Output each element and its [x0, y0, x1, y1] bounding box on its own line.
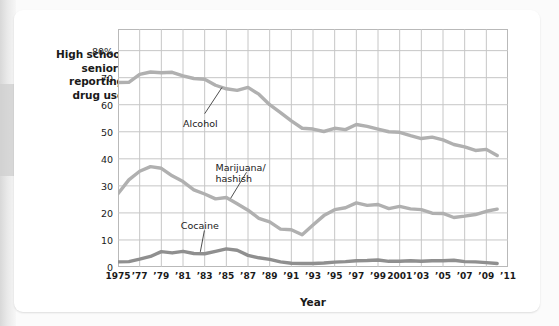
x-tick-label: 1975 — [105, 271, 130, 281]
x-tick-label: ’93 — [305, 271, 321, 281]
y-tick-label: 40 — [101, 153, 113, 164]
y-tick-label: 70 — [101, 72, 113, 83]
x-tick-label: ’05 — [435, 271, 451, 281]
annotation-leader-line — [200, 230, 204, 251]
x-tick-label: ’89 — [262, 271, 278, 281]
y-tick-label: 10 — [101, 234, 113, 245]
x-tick-label: ’83 — [197, 271, 213, 281]
y-tick-label: 50 — [101, 126, 113, 137]
x-tick-label: ’99 — [370, 271, 386, 281]
figure-card: High school seniors reporting drug use 0… — [14, 10, 540, 312]
x-tick-label: 2001 — [387, 271, 412, 281]
x-tick-label: ’97 — [348, 271, 364, 281]
annotation-leader-line — [205, 87, 222, 113]
annotation-leader-layer — [118, 29, 508, 267]
x-axis-caption: Year — [118, 296, 508, 308]
x-tick-label: ’91 — [283, 271, 299, 281]
x-tick-label: ’79 — [153, 271, 169, 281]
y-tick-label: 30 — [101, 180, 113, 191]
page-background: High school seniors reporting drug use 0… — [0, 0, 559, 326]
x-tick-label: ’09 — [478, 271, 494, 281]
series-annotation-label: Cocaine — [181, 220, 219, 231]
y-tick-label: 80% — [92, 45, 113, 56]
x-tick-label: ’77 — [132, 271, 148, 281]
y-tick-label: 20 — [101, 207, 113, 218]
x-tick-label: ’81 — [175, 271, 191, 281]
x-tick-label: ’95 — [327, 271, 343, 281]
series-annotation-label: Marijuana/ hashish — [216, 162, 266, 184]
series-annotation-label: Alcohol — [183, 118, 218, 129]
x-tick-label: ’87 — [240, 271, 256, 281]
x-tick-label: ’85 — [218, 271, 234, 281]
y-tick-label: 60 — [101, 99, 113, 110]
x-tick-label: ’11 — [500, 271, 516, 281]
x-tick-label: ’03 — [413, 271, 429, 281]
x-tick-label: ’07 — [457, 271, 473, 281]
chart-plot-area: 01020304050607080% 1975’77’79’81’83’85’8… — [118, 29, 508, 267]
page-edge-tab — [0, 84, 14, 176]
